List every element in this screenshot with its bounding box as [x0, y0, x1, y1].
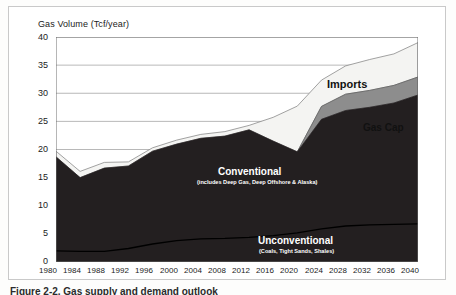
plot-area — [56, 37, 418, 262]
y-tick-label-5: 5 — [26, 229, 48, 238]
x-tick-label-1984: 1984 — [63, 267, 81, 275]
x-tick-label-2036: 2036 — [377, 267, 395, 275]
x-tick-label-2020: 2020 — [280, 267, 298, 275]
y-tick-label-15: 15 — [26, 173, 48, 182]
series-sublabel-unconventional: (Coals, Tight Sands, Shales) — [259, 248, 334, 255]
figure-caption: Figure 2-2. Gas supply and demand outloo… — [10, 286, 218, 295]
x-tick-label-2004: 2004 — [184, 267, 202, 275]
x-tick-label-1992: 1992 — [111, 267, 129, 275]
x-tick-label-2040: 2040 — [401, 267, 419, 275]
scanned-page: Gas Volume (Tcf/year) 40 35 30 25 20 15 … — [0, 0, 456, 295]
y-tick-label-25: 25 — [26, 117, 48, 126]
series-label-conventional: Conventional — [218, 167, 281, 177]
y-axis-title: Gas Volume (Tcf/year) — [38, 19, 129, 29]
x-tick-label-2012: 2012 — [232, 267, 250, 275]
series-sublabel-conventional: (includes Deep Gas, Deep Offshore & Alas… — [197, 179, 317, 186]
y-tick-label-40: 40 — [26, 33, 48, 42]
x-tick-label-1996: 1996 — [135, 267, 153, 275]
figure-frame: Gas Volume (Tcf/year) 40 35 30 25 20 15 … — [8, 6, 446, 280]
x-tick-label-2024: 2024 — [305, 267, 323, 275]
x-tick-label-2016: 2016 — [256, 267, 274, 275]
y-tick-label-10: 10 — [26, 201, 48, 210]
series-label-gas-cap: Gas Cap — [363, 123, 404, 133]
stacked-area-chart — [56, 37, 418, 262]
series-label-unconventional: Unconventional — [258, 236, 333, 246]
x-tick-label-2000: 2000 — [160, 267, 178, 275]
y-tick-label-35: 35 — [26, 61, 48, 70]
y-tick-label-20: 20 — [26, 145, 48, 154]
x-tick-label-1988: 1988 — [87, 267, 105, 275]
x-tick-label-2028: 2028 — [329, 267, 347, 275]
x-tick-label-1980: 1980 — [39, 267, 57, 275]
x-tick-label-2032: 2032 — [353, 267, 371, 275]
x-tick-label-2008: 2008 — [208, 267, 226, 275]
y-tick-label-30: 30 — [26, 89, 48, 98]
y-tick-label-0: 0 — [26, 257, 48, 266]
series-label-imports: Imports — [327, 79, 367, 89]
